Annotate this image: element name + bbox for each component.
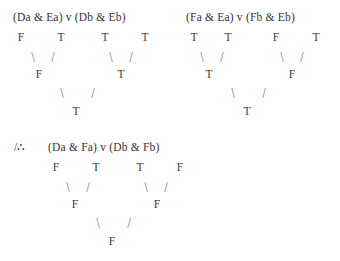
conclusion-branch-left-3: \ <box>93 217 103 231</box>
premise-1-mid-2: T <box>115 68 127 80</box>
premise-1-branch-right-2: / <box>126 51 136 65</box>
premise-2-mid-2: F <box>286 68 298 80</box>
premise-2-branch-right-3: / <box>259 87 269 101</box>
premise-2-branch-left-1: \ <box>197 51 207 65</box>
premise-1-leaf-3: T <box>99 31 111 43</box>
premise-1-leaf-2: T <box>55 31 67 43</box>
premise-1-branch-right-1: / <box>48 51 58 65</box>
conclusion-leaf-4: F <box>174 161 186 173</box>
conclusion-formula: (Da & Fa) v (Db & Fb) <box>48 140 160 154</box>
premise-2-mid-1: T <box>203 68 215 80</box>
premise-1-branch-right-3: / <box>88 87 98 101</box>
premise-2-formula: (Fa & Ea) v (Fb & Eb) <box>186 10 295 24</box>
premise-1-mid-1: F <box>33 68 45 80</box>
conclusion-mid-2: F <box>151 198 163 210</box>
conclusion-leaf-1: F <box>50 161 62 173</box>
conclusion-mid-1: F <box>69 198 81 210</box>
premise-1-branch-left-3: \ <box>57 87 67 101</box>
premise-2-leaf-1: T <box>188 31 200 43</box>
conclusion-leaf-2: T <box>90 161 102 173</box>
premise-2-leaf-3: F <box>270 31 282 43</box>
premise-2-root: T <box>241 105 253 117</box>
premise-2-branch-right-2: / <box>297 51 307 65</box>
premise-1-leaf-4: T <box>139 31 151 43</box>
premise-2-branch-left-2: \ <box>277 51 287 65</box>
premise-1-leaf-1: F <box>15 31 27 43</box>
premise-2-branch-right-1: / <box>217 51 227 65</box>
conclusion-branch-right-1: / <box>83 181 93 195</box>
conclusion-branch-right-3: / <box>124 217 134 231</box>
premise-2-leaf-4: T <box>310 31 322 43</box>
conclusion-root: F <box>106 235 118 247</box>
premise-1-branch-left-2: \ <box>106 51 116 65</box>
premise-1-branch-left-1: \ <box>28 51 38 65</box>
conclusion-leaf-3: T <box>134 161 146 173</box>
conclusion-branch-left-2: \ <box>141 181 151 195</box>
premise-2-leaf-2: T <box>222 31 234 43</box>
conclusion-branch-left-1: \ <box>63 181 73 195</box>
conclusion-branch-right-2: / <box>161 181 171 195</box>
premise-2-branch-left-3: \ <box>228 87 238 101</box>
premise-1-root: T <box>70 105 82 117</box>
premise-1-formula: (Da & Ea) v (Db & Eb) <box>13 10 126 24</box>
therefore-marker: /∴ <box>14 140 25 154</box>
